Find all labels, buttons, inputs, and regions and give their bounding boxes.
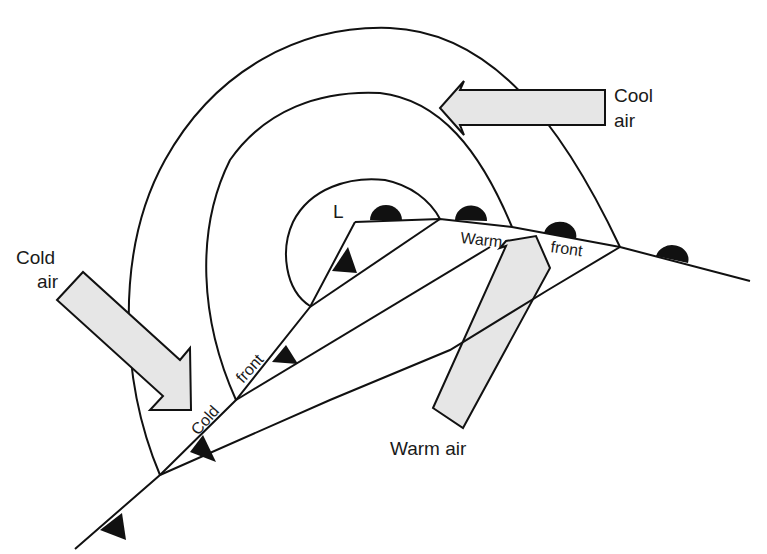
- warm-front-label-word1: Warm: [460, 229, 504, 250]
- warm-front-semicircle-icon: [370, 205, 402, 220]
- warm-air-label: Warm air: [390, 438, 467, 459]
- cold-front-upper: [75, 222, 355, 549]
- cold-front-triangle-icon: [272, 345, 298, 364]
- low-pressure-label: L: [333, 201, 344, 222]
- cold-air-arrow: [57, 272, 191, 410]
- warm-front-semicircle-icon: [455, 205, 487, 221]
- cold-air-label-line1: Cold: [16, 247, 55, 268]
- weather-front-diagram: L Cool air Cold air Warm air Warm front …: [0, 0, 767, 554]
- cool-air-label-line1: Cool: [614, 85, 653, 106]
- cold-air-label-line2: air: [37, 271, 59, 292]
- warm-front-label-word2: front: [550, 238, 585, 259]
- isobar-inner: [286, 179, 440, 306]
- cool-air-label-line2: air: [614, 110, 636, 131]
- cold-front-triangle-icon: [190, 435, 216, 462]
- inner-trough-line: [310, 219, 440, 307]
- warm-air-arrow: [433, 236, 550, 428]
- cool-air-arrow: [440, 81, 605, 135]
